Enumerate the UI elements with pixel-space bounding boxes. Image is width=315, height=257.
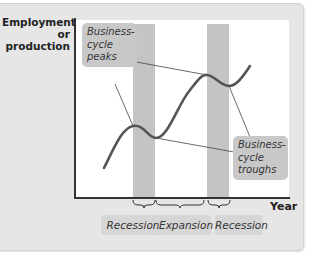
phase-label-recession-2: Recession <box>215 215 263 235</box>
recession-brace-2 <box>208 200 230 208</box>
peaks-callout: Business- cycle peaks <box>82 23 137 67</box>
recession-band-2 <box>207 24 229 197</box>
y-axis <box>74 18 76 198</box>
recession-brace-1 <box>133 200 155 208</box>
expansion-brace <box>156 200 204 208</box>
phase-label-expansion: Expansion <box>159 215 211 235</box>
x-axis <box>74 197 290 199</box>
phase-label-recession-1: Recession <box>101 215 165 235</box>
trough-pointer-2 <box>229 86 250 137</box>
x-axis-label: Year <box>270 200 297 213</box>
y-axis-label: Employment or production <box>2 16 70 52</box>
peak-pointer-1 <box>115 84 133 126</box>
troughs-callout: Business- cycle troughs <box>233 136 288 180</box>
